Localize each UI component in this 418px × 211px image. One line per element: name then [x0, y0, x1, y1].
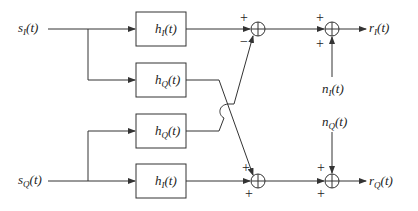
sign-sum2-bottom-upper: +: [317, 160, 325, 175]
sign-sum2-bottom-lower: +: [317, 186, 325, 201]
block-diagram: + − + + + + + + sI(t) sQ(t) hI(t) hQ(t) …: [0, 0, 418, 211]
label-rI: rI(t): [369, 20, 389, 37]
sign-sum1-top-lower: −: [240, 34, 248, 49]
label-hQ-upper: hQ(t): [155, 72, 180, 89]
label-hI-bottom: hI(t): [155, 173, 177, 190]
label-nI: nI(t): [322, 81, 344, 98]
label-rQ: rQ(t): [369, 173, 393, 190]
sign-sum1-bottom-upper: +: [242, 160, 250, 175]
summer-1-bottom: [251, 174, 265, 188]
input-line-sQ: [48, 131, 135, 181]
summer-1-top: [251, 22, 265, 36]
input-line-sI: [48, 29, 135, 80]
label-hQ-lower: hQ(t): [155, 123, 180, 140]
label-hI-top: hI(t): [155, 21, 177, 38]
summer-2-top: [325, 22, 339, 36]
label-nQ: nQ(t): [322, 114, 347, 131]
summer-2-bottom: [325, 174, 339, 188]
label-sQ: sQ(t): [18, 172, 42, 189]
sign-sum2-top-lower: +: [316, 36, 324, 51]
line-hQ-lower-to-sum1-top: [186, 36, 253, 131]
sign-sum2-top-upper: +: [316, 10, 324, 25]
sign-sum1-top-upper: +: [240, 10, 248, 25]
label-sI: sI(t): [18, 20, 38, 37]
sign-sum1-bottom-lower: +: [245, 186, 253, 201]
